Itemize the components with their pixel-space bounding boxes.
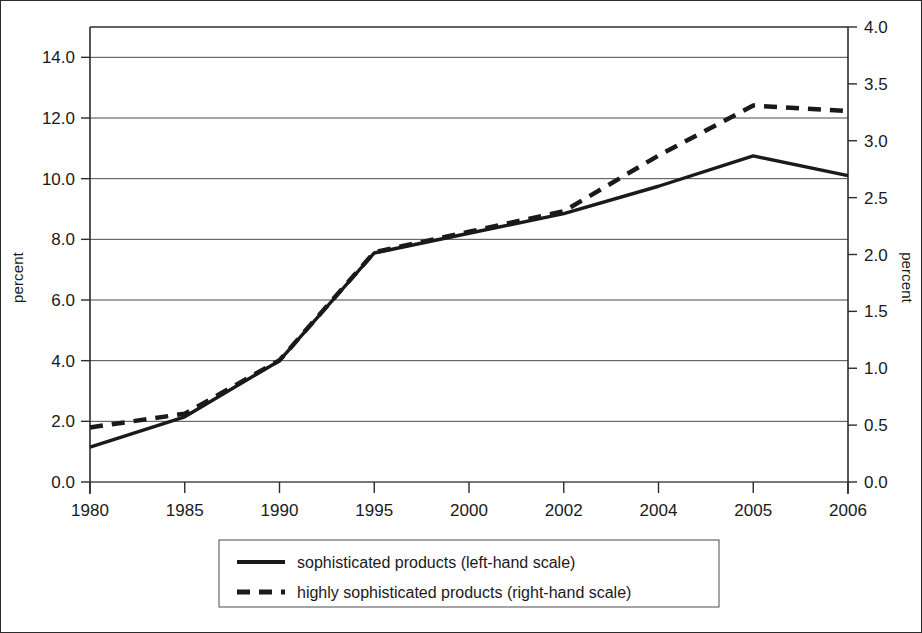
- x-tick-label: 2005: [734, 501, 772, 520]
- y-tick-label-left: 14.0: [42, 48, 75, 67]
- gridlines: [90, 57, 848, 482]
- x-axis-ticks: 198019851990199520002002200420052006: [71, 482, 867, 520]
- y-tick-label-left: 10.0: [42, 170, 75, 189]
- legend-label-1: sophisticated products (left-hand scale): [297, 554, 575, 571]
- y-tick-label-left: 12.0: [42, 109, 75, 128]
- y-tick-label-right: 4.0: [864, 18, 888, 37]
- plot-frame: [90, 27, 848, 494]
- figure-container: percent percent 0.02.04.06.08.010.012.01…: [0, 0, 922, 633]
- x-tick-label: 1990: [261, 501, 299, 520]
- data-series-group: [90, 105, 848, 447]
- legend-label-2: highly sophisticated products (right-han…: [297, 584, 631, 601]
- y-tick-label-right: 2.5: [864, 189, 888, 208]
- y-tick-label-right: 2.0: [864, 246, 888, 265]
- x-tick-label: 1980: [71, 501, 109, 520]
- y-tick-label-right: 1.5: [864, 302, 888, 321]
- y-tick-label-left: 2.0: [51, 412, 75, 431]
- y-tick-label-right: 1.0: [864, 359, 888, 378]
- y-tick-label-left: 6.0: [51, 291, 75, 310]
- x-tick-label: 1985: [166, 501, 204, 520]
- x-tick-label: 2006: [829, 501, 867, 520]
- x-tick-label: 2000: [450, 501, 488, 520]
- line-chart: 0.02.04.06.08.010.012.014.0 0.00.51.01.5…: [1, 1, 922, 633]
- x-tick-label: 2004: [640, 501, 678, 520]
- chart-legend: sophisticated products (left-hand scale)…: [219, 540, 719, 607]
- series-line-2: [90, 105, 848, 427]
- y-tick-label-right: 3.5: [864, 75, 888, 94]
- y-tick-label-right: 0.0: [864, 473, 888, 492]
- y-tick-label-right: 0.5: [864, 416, 888, 435]
- y-axis-left-ticks: 0.02.04.06.08.010.012.014.0: [42, 48, 90, 492]
- y-axis-right-ticks: 0.00.51.01.52.02.53.03.54.0: [848, 18, 888, 492]
- x-tick-label: 2002: [545, 501, 583, 520]
- y-tick-label-left: 8.0: [51, 230, 75, 249]
- y-tick-label-left: 0.0: [51, 473, 75, 492]
- y-tick-label-left: 4.0: [51, 352, 75, 371]
- y-tick-label-right: 3.0: [864, 132, 888, 151]
- x-tick-label: 1995: [355, 501, 393, 520]
